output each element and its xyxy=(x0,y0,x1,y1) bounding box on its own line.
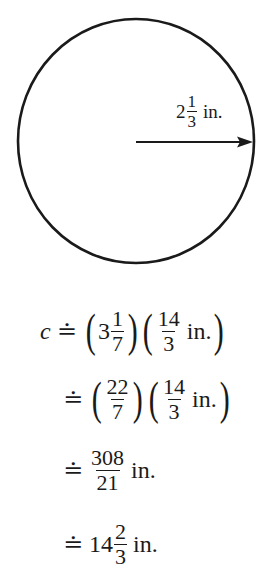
denominator: 3 xyxy=(114,544,127,568)
equation-line-1: c ≐ ( 3 1 7 ) ( 14 3 in. ) xyxy=(0,300,263,362)
numerator: 22 xyxy=(105,376,129,399)
pi-improper-fraction: 22 7 xyxy=(105,376,129,423)
denominator: 21 xyxy=(96,470,120,494)
right-paren: ) xyxy=(128,308,138,354)
approx-equal-symbol: ≐ xyxy=(63,530,83,558)
radius-label: 2 1 3 in. xyxy=(176,93,223,130)
left-paren: ( xyxy=(92,376,102,422)
product-fraction: 308 21 xyxy=(90,447,125,494)
pi-approx-mixed: 3 1 7 xyxy=(98,308,125,355)
radius-numerator: 1 xyxy=(187,93,198,111)
right-paren: ) xyxy=(219,376,229,422)
denominator: 3 xyxy=(168,399,181,423)
equation-line-2: ≐ ( 22 7 ) ( 14 3 in. ) xyxy=(0,368,263,430)
numerator: 14 xyxy=(162,376,186,399)
left-paren: ( xyxy=(143,308,153,354)
diameter-fraction: 14 3 xyxy=(162,376,186,423)
unit-label: in. xyxy=(131,457,156,484)
denominator: 7 xyxy=(111,399,124,423)
radius-mixed-number: 2 1 3 xyxy=(176,93,198,130)
radius-denominator: 3 xyxy=(187,111,198,130)
result-fraction: 2 3 xyxy=(114,521,127,568)
unit-label: in. xyxy=(133,531,158,558)
approx-equal-symbol: ≐ xyxy=(63,385,83,413)
equation-line-4: ≐ 14 2 3 in. xyxy=(0,514,263,571)
pi-fraction: 1 7 xyxy=(111,308,124,355)
circle-figure: 2 1 3 in. xyxy=(0,0,263,290)
pi-whole: 3 xyxy=(98,318,110,345)
numerator: 1 xyxy=(111,308,124,331)
denominator: 7 xyxy=(111,331,124,355)
left-paren: ( xyxy=(85,308,95,354)
left-paren: ( xyxy=(148,376,158,422)
result-whole: 14 xyxy=(89,531,113,558)
denominator: 3 xyxy=(162,331,175,355)
approx-equal-symbol: ≐ xyxy=(63,456,83,484)
right-paren: ) xyxy=(214,308,224,354)
radius-unit: in. xyxy=(203,101,223,123)
radius-fraction: 1 3 xyxy=(187,93,198,130)
circle-diagram xyxy=(0,0,263,290)
radius-whole: 2 xyxy=(176,101,186,123)
result-mixed-number: 14 2 3 xyxy=(89,521,128,568)
unit-label: in. xyxy=(187,318,212,345)
circumference-variable: c xyxy=(40,318,51,345)
approx-equal-symbol: ≐ xyxy=(57,317,77,345)
numerator: 2 xyxy=(114,521,127,544)
right-paren: ) xyxy=(133,376,143,422)
equation-line-3: ≐ 308 21 in. xyxy=(0,440,263,500)
numerator: 308 xyxy=(90,447,125,470)
numerator: 14 xyxy=(157,308,181,331)
unit-label: in. xyxy=(192,386,217,413)
diameter-fraction: 14 3 xyxy=(157,308,181,355)
